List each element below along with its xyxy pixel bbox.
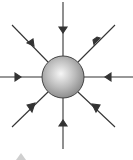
field-line-top-left [12,25,48,62]
arrow-right-icon [15,73,21,81]
triangle-marker-icon [16,153,26,160]
field-line-right [84,73,133,81]
field-line-top [59,2,67,56]
field-line-bottom-left [12,92,48,127]
field-line-top-right [78,25,115,62]
field-line-bottom-right [78,92,115,127]
arrow-up-left-icon [92,104,100,112]
field-line-bottom [59,98,67,149]
field-line-left [0,73,42,81]
field-diagram [0,0,133,160]
arrow-up-icon [59,120,67,126]
arrow-left-icon [105,73,111,81]
diagram-svg [0,0,133,160]
arrow-down-icon [59,27,67,33]
arrow-down-right-icon [27,39,34,46]
charge-sphere [42,56,84,98]
